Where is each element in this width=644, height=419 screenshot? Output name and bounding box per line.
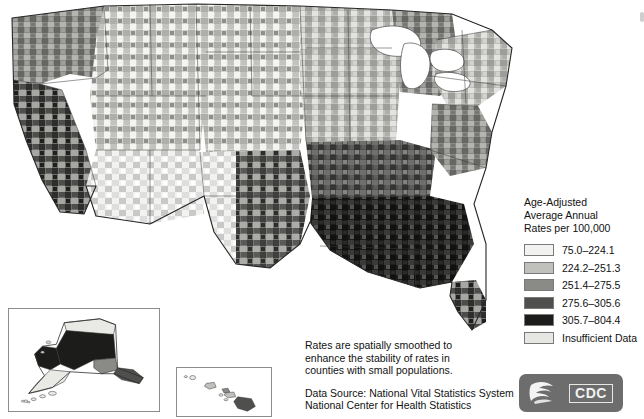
cdc-wordmark: CDC <box>569 384 613 403</box>
map-svg <box>0 0 530 340</box>
map-notes: Rates are spatially smoothed to enhance … <box>305 339 530 412</box>
legend-item-class-3: 251.4–275.5 <box>524 277 642 293</box>
alaska-inset <box>8 308 160 412</box>
legend-label-class-3: 251.4–275.5 <box>562 279 620 291</box>
island-lanai <box>219 394 223 396</box>
legend-label-class-4: 275.6–305.6 <box>562 297 620 309</box>
smoothing-note: Rates are spatially smoothed to enhance … <box>305 339 530 377</box>
hawaii-map-svg <box>177 368 271 416</box>
us-county-choropleth-map <box>0 0 530 340</box>
alaska-map-svg <box>9 309 159 411</box>
alaska-region-peninsula <box>29 370 70 394</box>
legend-swatch-class-3 <box>524 279 554 291</box>
hawaii-inset <box>176 367 272 417</box>
legend-label-class-2: 224.2–251.3 <box>562 262 620 274</box>
map-figure: Age-Adjusted Average Annual Rates per 10… <box>0 0 644 419</box>
legend-swatch-class-2 <box>524 262 554 274</box>
legend-label-class-5: 305.7–804.4 <box>562 314 620 326</box>
hhs-eagle-svg <box>529 380 563 406</box>
island-molokai <box>222 388 230 393</box>
hawaiian-islands <box>184 375 255 411</box>
legend: Age-Adjusted Average Annual Rates per 10… <box>524 196 642 347</box>
legend-swatch-class-1 <box>524 244 554 256</box>
island-kahoolawe <box>224 399 228 401</box>
island-kauai <box>190 375 196 379</box>
legend-swatch-class-4 <box>524 297 554 309</box>
island-maui <box>224 392 236 398</box>
cdc-logo: CDC <box>519 374 623 412</box>
hhs-eagle-icon <box>529 380 563 406</box>
legend-item-class-5: 305.7–804.4 <box>524 312 642 328</box>
legend-item-insufficient-data: Insufficient Data <box>524 330 642 346</box>
alaska-region-southcentral <box>94 358 118 374</box>
legend-item-class-2: 224.2–251.3 <box>524 260 642 276</box>
legend-title: Age-Adjusted Average Annual Rates per 10… <box>524 196 642 235</box>
legend-item-class-1: 75.0–224.1 <box>524 242 642 258</box>
data-source-note: Data Source: National Vital Statistics S… <box>305 387 530 412</box>
island-oahu <box>204 382 216 389</box>
legend-item-class-4: 275.6–305.6 <box>524 295 642 311</box>
legend-swatch-class-5 <box>524 314 554 326</box>
island-hawaii <box>234 397 256 411</box>
legend-label-class-1: 75.0–224.1 <box>562 244 615 256</box>
legend-label-insufficient-data: Insufficient Data <box>562 332 637 344</box>
scan-edge-artifact <box>640 12 644 22</box>
island-niihau <box>184 376 187 378</box>
